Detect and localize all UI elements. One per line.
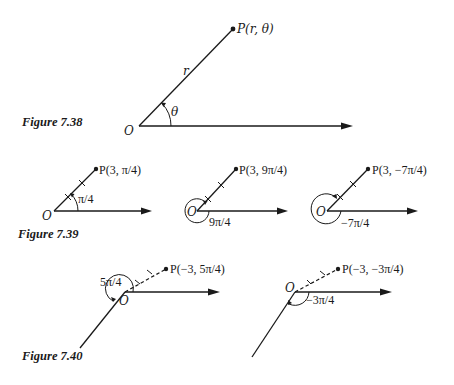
arrowhead-icon xyxy=(341,123,353,130)
panel-neg3-neg3pi-over-4: P(−3, −3π/4) −3π/4 O xyxy=(252,262,404,357)
point-label: P(−3, −3π/4) xyxy=(342,262,404,276)
origin-label: O xyxy=(285,281,295,295)
angle-label: 5π/4 xyxy=(100,275,121,289)
angle-label: π/4 xyxy=(78,192,93,206)
angle-label: 9π/4 xyxy=(209,215,230,229)
arc-arrowhead-icon xyxy=(111,297,116,302)
point-label: P(3, −7π/4) xyxy=(372,163,427,177)
arrowhead-icon xyxy=(141,208,152,215)
figure-caption: Figure 7.39 xyxy=(17,227,79,241)
origin-label: O xyxy=(119,294,129,308)
arrowhead-icon xyxy=(277,208,288,215)
point-label: P(−3, 5π/4) xyxy=(170,262,225,276)
panel-9pi-over-4: P(3, 9π/4) 9π/4 O xyxy=(185,163,288,229)
radius-label: r xyxy=(183,64,190,78)
origin-label: O xyxy=(187,205,197,219)
figure-7-40: Figure 7.40 P(−3, 5π/4) 5π/4 O xyxy=(21,262,404,363)
figure-caption: Figure 7.38 xyxy=(21,115,83,129)
figure-7-39: Figure 7.39 P(3, π/4) π/4 O P(3, 9π/4) xyxy=(17,163,427,241)
dashed-ray xyxy=(295,269,338,292)
point-marker xyxy=(94,167,98,171)
point-marker xyxy=(366,167,370,171)
angle-arc xyxy=(162,104,171,127)
radius-segment xyxy=(327,169,368,211)
angle-label: −3π/4 xyxy=(306,293,334,307)
arc-arrowhead-icon xyxy=(161,103,166,108)
arrowhead-icon xyxy=(407,208,418,215)
point-label: P(3, π/4) xyxy=(99,163,141,177)
point-marker xyxy=(336,267,340,271)
origin-label: O xyxy=(124,124,134,138)
tick-mark xyxy=(147,270,152,274)
point-label: P(r, θ) xyxy=(236,22,274,36)
radius-segment xyxy=(197,169,236,211)
figure-caption: Figure 7.40 xyxy=(21,349,83,363)
arrowhead-icon xyxy=(208,289,220,296)
point-marker xyxy=(231,27,236,32)
panel-neg3-5pi-over-4: P(−3, 5π/4) 5π/4 O xyxy=(80,262,225,348)
angle-label: θ xyxy=(171,105,179,119)
tick-mark xyxy=(307,280,311,284)
angle-label: −7π/4 xyxy=(341,216,369,230)
polar-coordinates-diagram: Figure 7.38 P(r, θ) r θ O Figure 7.39 P(… xyxy=(0,0,454,385)
point-marker xyxy=(164,267,168,271)
tick-mark xyxy=(135,280,140,284)
origin-label: O xyxy=(316,205,326,219)
arrowhead-icon xyxy=(380,289,392,296)
panel-pi-over-4: P(3, π/4) π/4 O xyxy=(42,163,152,223)
point-label: P(3, 9π/4) xyxy=(239,163,287,177)
panel-neg-7pi-over-4: P(3, −7π/4) −7π/4 O xyxy=(311,163,427,230)
origin-label: O xyxy=(42,209,52,223)
point-marker xyxy=(234,167,238,171)
tick-mark xyxy=(320,271,325,275)
figure-7-38: Figure 7.38 P(r, θ) r θ O xyxy=(21,22,353,138)
